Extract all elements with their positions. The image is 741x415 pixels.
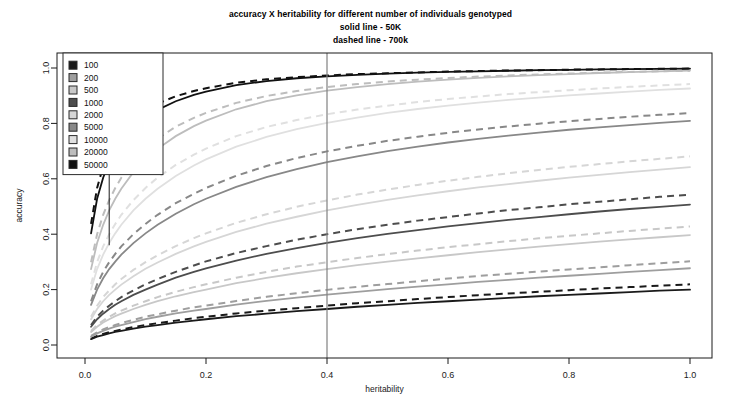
legend-swatch-5000 [69,123,77,131]
y-tick-label-0.2: 0.2 [41,283,51,296]
y-tick-label-1.0: 1.0 [41,62,51,75]
series-group-200 [91,261,690,336]
legend-swatch-10000 [69,136,77,144]
legend-swatch-50000 [69,160,77,168]
series-group-10000 [91,84,690,290]
series-group-500 [91,226,690,332]
legend-label-2000: 2000 [84,110,103,120]
y-tick-label-0.6: 0.6 [41,173,51,186]
legend-label-10000: 10000 [84,135,108,145]
legend-item-1000[interactable]: 1000 [69,98,103,108]
legend-label-5000: 5000 [84,122,103,132]
legend-item-10000[interactable]: 10000 [69,135,108,145]
legend[interactable]: 100200500100020005000100002000050000 [63,53,163,175]
y-tick-label-0.8: 0.8 [41,117,51,130]
legend-item-50000[interactable]: 50000 [69,160,108,170]
curve-solid-200 [91,268,690,336]
x-tick-label-0.8: 0.8 [563,370,576,380]
legend-box [63,53,163,175]
x-axis-title: heritability [365,384,404,394]
curve-solid-2000 [91,167,690,319]
plot-svg: 0.00.20.40.60.81.00.00.20.40.60.81.0heri… [0,0,741,415]
legend-swatch-20000 [69,148,77,156]
curve-dashed-100 [91,284,690,338]
legend-label-50000: 50000 [84,160,108,170]
x-tick-label-0.0: 0.0 [79,370,92,380]
curve-dashed-200 [91,261,690,336]
x-tick-label-0.4: 0.4 [321,370,334,380]
legend-label-200: 200 [84,73,98,83]
legend-label-1000: 1000 [84,98,103,108]
legend-item-100[interactable]: 100 [69,60,98,70]
legend-label-20000: 20000 [84,147,108,157]
legend-item-2000[interactable]: 2000 [69,110,103,120]
legend-item-200[interactable]: 200 [69,73,98,83]
x-tick-label-0.2: 0.2 [200,370,213,380]
legend-swatch-1000 [69,98,77,106]
legend-swatch-500 [69,86,77,94]
y-axis-title: accuracy [14,188,24,223]
legend-item-20000[interactable]: 20000 [69,147,108,157]
legend-swatch-200 [69,74,77,82]
curve-solid-5000 [91,121,690,305]
legend-label-100: 100 [84,60,98,70]
curves-layer [91,69,690,340]
curve-solid-100 [91,290,690,340]
chart-canvas: accuracy X heritability for different nu… [0,0,741,415]
legend-item-500[interactable]: 500 [69,85,98,95]
curve-solid-1000 [91,205,690,327]
x-tick-label-0.6: 0.6 [442,370,455,380]
legend-item-5000[interactable]: 5000 [69,122,103,132]
y-tick-label-0.0: 0.0 [41,339,51,352]
legend-label-500: 500 [84,85,98,95]
legend-swatch-100 [69,61,77,69]
x-tick-label-1.0: 1.0 [684,370,697,380]
y-tick-label-0.4: 0.4 [41,228,51,241]
legend-swatch-2000 [69,111,77,119]
